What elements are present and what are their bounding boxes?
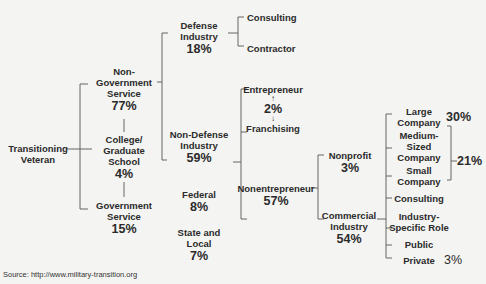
node-label: Company xyxy=(397,176,440,187)
node-percent: 59% xyxy=(170,151,229,166)
node-label: Industry xyxy=(170,140,229,151)
node-label: Nonentrepreneur xyxy=(237,183,314,194)
node-percent: 57% xyxy=(237,194,314,209)
node-label: Public xyxy=(405,239,434,250)
node-consulting-defense: Consulting xyxy=(247,12,297,23)
node-contractor: Contractor xyxy=(247,43,296,54)
node-label: Non- xyxy=(96,66,152,77)
node-label: Government xyxy=(96,200,152,211)
node-label: Government xyxy=(96,77,152,88)
node-label: Defense xyxy=(180,20,217,31)
node-label: Sized xyxy=(397,141,440,152)
node-label: Federal xyxy=(182,189,216,200)
node-label: State and xyxy=(178,227,221,238)
node-label: Industry xyxy=(322,221,376,232)
node-percent: 4% xyxy=(103,167,145,182)
node-federal: Federal 8% xyxy=(182,189,216,215)
node-label: Graduate xyxy=(103,145,145,156)
node-entrepreneur-franchising: Entrepreneur ↑ 2% ↓ Franchising xyxy=(243,84,303,134)
node-label: Company xyxy=(397,152,440,163)
node-label: Commercial xyxy=(322,210,376,221)
node-defense-industry: Defense Industry 18% xyxy=(180,20,217,57)
node-non-defense-industry: Non-Defense Industry 59% xyxy=(170,129,229,166)
node-industry-specific-role: Industry- Specific Role xyxy=(389,211,449,233)
node-label: Consulting xyxy=(394,193,444,204)
node-percent: 77% xyxy=(96,99,152,114)
node-nonentrepreneur: Nonentrepreneur 57% xyxy=(237,183,314,209)
node-label: Industry xyxy=(180,31,217,42)
node-label: Service xyxy=(96,88,152,99)
node-label: Franchising xyxy=(243,123,303,134)
node-small-company: Small Company xyxy=(397,165,440,187)
node-label: Private xyxy=(403,255,435,266)
node-label: Nonprofit xyxy=(329,150,372,161)
large-company-percent: 30% xyxy=(446,110,471,124)
node-label: School xyxy=(103,156,145,167)
node-commercial-industry: Commercial Industry 54% xyxy=(322,210,376,247)
node-label: Consulting xyxy=(247,12,297,23)
node-private: Private xyxy=(403,255,435,266)
down-arrow-icon: ↓ xyxy=(243,115,303,123)
node-label: Small xyxy=(397,165,440,176)
node-percent: 8% xyxy=(182,200,216,215)
node-label: Medium- xyxy=(397,130,440,141)
node-label: Industry- xyxy=(389,211,449,222)
node-nonprofit: Nonprofit 3% xyxy=(329,150,372,176)
private-percent: 3% xyxy=(444,253,462,267)
node-large-company: Large Company xyxy=(397,106,440,128)
node-public: Public xyxy=(405,239,434,250)
node-label: Large xyxy=(397,106,440,117)
node-consulting-commercial: Consulting xyxy=(394,193,444,204)
node-transitioning-veteran: Transitioning Veteran xyxy=(6,143,70,165)
node-medium-sized-company: Medium- Sized Company xyxy=(397,130,440,163)
node-label: Non-Defense xyxy=(170,129,229,140)
node-government-service: Government Service 15% xyxy=(96,200,152,237)
node-label: Specific Role xyxy=(389,222,449,233)
node-percent: 54% xyxy=(322,232,376,247)
node-percent: 3% xyxy=(329,161,372,176)
node-label: Transitioning Veteran xyxy=(6,143,70,165)
node-label: Service xyxy=(96,211,152,222)
node-label: Contractor xyxy=(247,43,296,54)
node-percent: 7% xyxy=(178,249,221,264)
node-percent: 18% xyxy=(180,42,217,57)
node-college-graduate-school: College/ Graduate School 4% xyxy=(103,134,145,182)
node-label: Company xyxy=(397,117,440,128)
career-path-diagram: Transitioning Veteran Non- Government Se… xyxy=(0,0,486,284)
node-state-and-local: State and Local 7% xyxy=(178,227,221,264)
medium-small-percent: 21% xyxy=(457,154,482,168)
node-label: College/ xyxy=(103,134,145,145)
source-caption: Source: http://www.military-transition.o… xyxy=(3,270,137,279)
node-label: Local xyxy=(178,238,221,249)
node-non-government-service: Non- Government Service 77% xyxy=(96,66,152,114)
node-percent: 15% xyxy=(96,222,152,237)
